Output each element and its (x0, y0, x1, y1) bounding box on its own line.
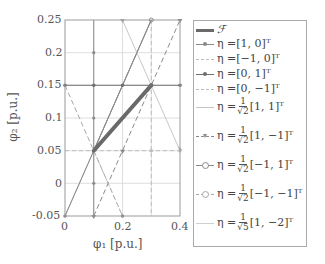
legend-item: η = 1√2 [−1, 1]ᵀ (196, 155, 293, 174)
fraction: 1√2 (237, 155, 248, 174)
legend-item: η = [0, −1]ᵀ (196, 82, 280, 95)
line-circle-icon (196, 160, 214, 170)
line-icon (196, 102, 214, 112)
x-tick: 0 (61, 220, 68, 233)
line-icon (196, 218, 214, 228)
dashed-circle-icon (196, 189, 214, 199)
legend-item: η = [0, 1]ᵀ (196, 67, 271, 80)
dashed-triangle-icon (196, 131, 214, 141)
legend-item: η = 1√2 [1, 1]ᵀ (196, 97, 284, 116)
y-tick: 0.2 (45, 46, 63, 59)
line-marker-icon (196, 39, 214, 49)
fraction: 1√5 (237, 213, 248, 232)
legend: ℱ η = [1, 0]ᵀ η = [−1, 0]ᵀ η = [0, 1]ᵀ η… (193, 20, 307, 247)
y-axis-label: φ₂ [p.u.] (6, 92, 20, 141)
x-axis-label: φ₁ [p.u.] (93, 237, 142, 251)
x-tick: 0.2 (114, 220, 132, 233)
fraction: 1√2 (237, 97, 248, 116)
y-tick: 0.25 (37, 13, 62, 26)
legend-item: η = 1√5 [1, −2]ᵀ (196, 213, 293, 232)
x-tick: 0.4 (171, 220, 189, 233)
line-marker-icon (196, 69, 214, 79)
y-tick: -0.05 (32, 209, 60, 222)
y-tick: 0 (55, 177, 62, 190)
legend-item: η = 1√2 [−1, −1]ᵀ (196, 184, 302, 203)
y-tick: 0.15 (37, 78, 62, 91)
y-tick: 0.1 (45, 111, 63, 124)
legend-item: η = [1, 0]ᵀ (196, 37, 271, 50)
fraction: 1√2 (237, 184, 248, 203)
thick-line-icon (196, 25, 214, 35)
dashed-line-icon (196, 84, 214, 94)
dashed-line-icon (196, 54, 214, 64)
legend-item-F: ℱ (196, 23, 226, 36)
fraction: 1√2 (237, 126, 248, 145)
legend-item: η = 1√2 [1, −1]ᵀ (196, 126, 293, 145)
y-tick: 0.05 (37, 144, 62, 157)
legend-item: η = [−1, 0]ᵀ (196, 52, 280, 65)
